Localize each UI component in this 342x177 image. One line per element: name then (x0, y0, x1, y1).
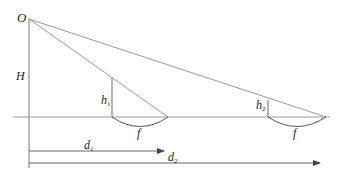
d1-label: d1 (84, 139, 94, 153)
curvature-arc-1 (112, 117, 168, 127)
origin-label: O (17, 11, 26, 24)
f1-label: f (137, 127, 140, 139)
f2-label: f (293, 127, 296, 139)
d1-sub: 1 (90, 145, 94, 153)
h2-label: h2 (256, 99, 266, 113)
sight-line-2 (29, 19, 326, 117)
d2-label: d2 (168, 151, 178, 165)
height-label: H (16, 70, 25, 82)
h1-sub: 1 (107, 100, 111, 108)
sag-geometry-diagram: O H h1 h2 f f d1 d2 (0, 0, 342, 177)
curvature-arc-2 (268, 117, 326, 127)
d2-sub: 2 (174, 157, 178, 165)
sight-line-1 (29, 19, 168, 117)
h2-sub: 2 (262, 105, 266, 113)
h1-label: h1 (101, 94, 111, 108)
